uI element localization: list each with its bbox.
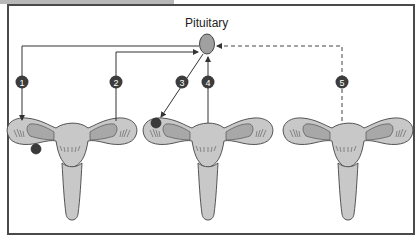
svg-text:2: 2 [113, 78, 118, 88]
follicle-icon [151, 118, 161, 128]
badge-1: 1 [16, 76, 29, 89]
badge-2: 2 [110, 76, 123, 89]
badge-5: 5 [336, 76, 349, 89]
svg-text:5: 5 [339, 78, 344, 88]
badge-4: 4 [202, 76, 215, 89]
pituitary-gland [200, 34, 215, 54]
reproductive-tract-1 [7, 118, 137, 220]
svg-text:3: 3 [179, 78, 184, 88]
svg-text:4: 4 [205, 78, 210, 88]
follicle-icon [31, 144, 41, 154]
reproductive-tract-2 [143, 118, 273, 220]
reproductive-diagram: 1 2 3 4 5 [0, 0, 420, 239]
badge-3: 3 [176, 76, 189, 89]
pituitary-label: Pituitary [185, 16, 228, 30]
svg-text:1: 1 [19, 78, 24, 88]
pathway-5-arrow [217, 46, 342, 121]
reproductive-tract-3 [283, 118, 413, 220]
